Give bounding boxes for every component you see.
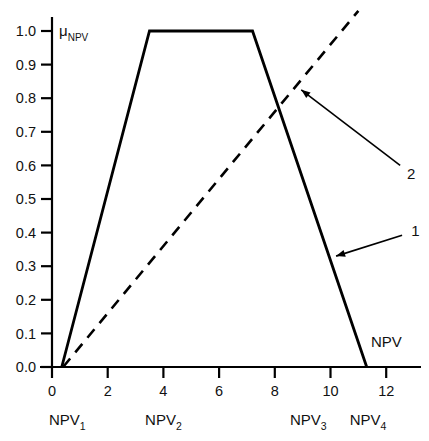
breakpoint-label-text: NPV	[350, 411, 381, 428]
y-tick-label: 0.3	[16, 258, 36, 274]
y-tick-label: 0.2	[16, 292, 36, 308]
x-tick-label: 6	[215, 383, 223, 399]
annotation-leader-2	[301, 90, 400, 166]
y-axis-label: μNPV	[59, 22, 89, 43]
npv-membership-chart: 0.00.10.20.30.40.50.60.70.80.91.0 024681…	[0, 0, 429, 441]
y-axis-label-sub: NPV	[68, 32, 89, 43]
x-tick-label: 4	[159, 383, 167, 399]
x-tick-label: 0	[48, 383, 56, 399]
y-axis-label-mu: μ	[59, 22, 68, 39]
x-tick-label: 2	[104, 383, 112, 399]
x-tick-label: 12	[378, 383, 394, 399]
breakpoint-label-2: NPV2	[145, 411, 182, 432]
y-axis-tick-labels: 0.00.10.20.30.40.50.60.70.80.91.0	[16, 23, 36, 375]
y-tick-label: 0.5	[16, 191, 36, 207]
y-tick-label: 0.0	[16, 359, 36, 375]
breakpoint-label-text: NPV	[145, 411, 176, 428]
y-tick-label: 1.0	[16, 23, 36, 39]
annotation-label-1: 1	[411, 222, 419, 239]
x-axis-ticks	[52, 367, 386, 378]
breakpoint-labels-group: NPV1NPV2NPV3NPV4	[49, 411, 387, 432]
series-line-1	[62, 31, 367, 367]
breakpoint-label-text: NPV	[290, 411, 321, 428]
x-axis-tick-labels: 024681012	[48, 383, 394, 399]
annotation-label-2: 2	[407, 165, 415, 182]
y-tick-label: 0.6	[16, 158, 36, 174]
y-axis-ticks	[41, 31, 52, 367]
figure-container: 0.00.10.20.30.40.50.60.70.80.91.0 024681…	[0, 0, 429, 441]
annotation-group: 12	[301, 90, 419, 257]
y-tick-label: 0.7	[16, 124, 36, 140]
annotation-arrowhead-1	[336, 250, 346, 257]
y-tick-label: 0.8	[16, 90, 36, 106]
breakpoint-label-sub: 3	[321, 420, 327, 432]
x-axis-label: NPV	[371, 333, 402, 350]
breakpoint-label-sub: 2	[176, 420, 182, 432]
y-tick-label: 0.4	[16, 225, 36, 241]
breakpoint-label-4: NPV4	[350, 411, 387, 432]
y-tick-label: 0.9	[16, 57, 36, 73]
breakpoint-label-text: NPV	[49, 411, 80, 428]
breakpoint-label-sub: 1	[80, 420, 86, 432]
figure-caption	[6, 432, 429, 441]
breakpoint-label-sub: 4	[381, 420, 387, 432]
annotation-arrowhead-2	[301, 90, 310, 98]
annotation-leader-1	[336, 235, 402, 256]
x-tick-label: 10	[322, 383, 338, 399]
y-tick-label: 0.1	[16, 326, 36, 342]
data-series-group	[62, 11, 367, 367]
breakpoint-label-1: NPV1	[49, 411, 86, 432]
x-tick-label: 8	[271, 383, 279, 399]
breakpoint-label-3: NPV3	[290, 411, 327, 432]
